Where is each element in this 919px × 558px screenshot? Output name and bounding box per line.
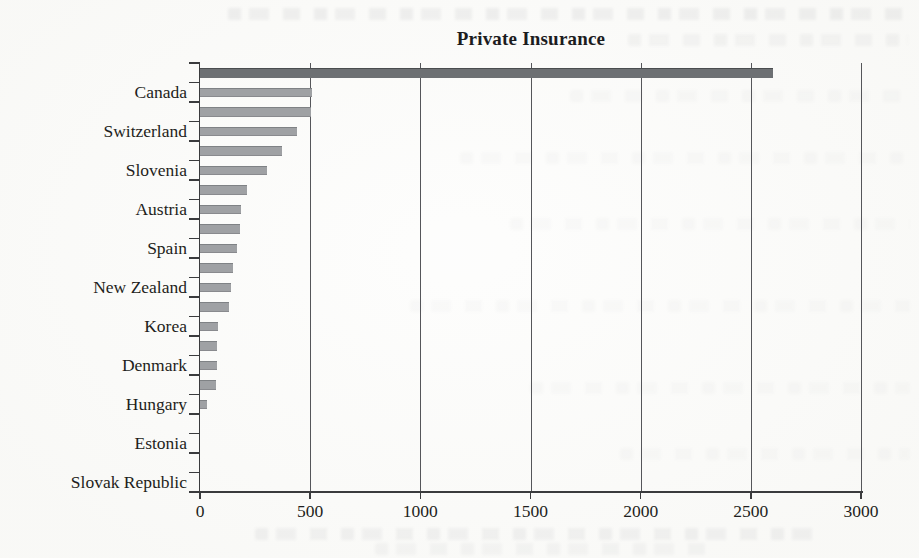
bar-row-11 [200,263,233,273]
x-axis-label-1000: 1000 [403,501,438,522]
x-tick-500 [309,492,310,499]
y-axis-label-new-zealand: New Zealand [7,277,187,297]
x-axis-label-500: 500 [297,501,323,522]
bleed-through-artifact [255,528,820,540]
x-tick-2000 [640,492,641,499]
x-axis-line [197,491,863,493]
x-axis-label-2000: 2000 [623,501,658,522]
x-axis-label-0: 0 [196,501,205,522]
gridline-x-2000 [641,63,642,492]
x-tick-1000 [420,492,421,499]
y-axis-label-hungary: Hungary [7,394,187,414]
x-tick-0 [199,492,200,499]
bleed-through-artifact [628,34,908,46]
y-axis-label-canada: Canada [7,82,187,102]
bar-slovenia [200,166,267,176]
y-axis-label-slovenia: Slovenia [7,160,187,180]
bar-row-17 [200,380,216,390]
bar-denmark [200,361,217,371]
x-axis-label-3000: 3000 [844,501,879,522]
y-axis-label-austria: Austria [7,199,187,219]
gridline-x-500 [310,63,311,492]
bar-spain [200,244,237,254]
bar-row-3 [200,107,311,117]
bar-new-zealand [200,283,231,293]
bar-row-13 [200,302,229,312]
y-axis-label-korea: Korea [7,316,187,336]
bar-canada [200,88,312,98]
bar-austria [200,205,241,215]
plot-area [200,63,861,492]
bar-switzerland [200,127,297,137]
gridline-x-1500 [531,63,532,492]
y-axis-label-denmark: Denmark [7,355,187,375]
y-axis-label-slovak-republic: Slovak Republic [7,472,187,492]
bar-row-1 [200,68,773,78]
bar-korea [200,322,218,332]
scanned-page: Private Insurance CanadaSwitzerlandSlove… [0,0,919,558]
chart-title: Private Insurance [457,28,606,50]
bleed-through-artifact [228,8,904,20]
bleed-through-artifact [375,543,705,555]
bar-row-7 [200,185,247,195]
y-axis-label-spain: Spain [7,238,187,258]
x-tick-1500 [530,492,531,499]
x-tick-2500 [750,492,751,499]
x-axis-label-2500: 2500 [733,501,768,522]
y-axis-label-switzerland: Switzerland [7,121,187,141]
bar-row-15 [200,341,217,351]
x-axis-label-1500: 1500 [513,501,548,522]
gridline-x-2500 [751,63,752,492]
bar-row-9 [200,224,240,234]
bar-hungary [200,400,207,410]
y-axis-label-estonia: Estonia [7,433,187,453]
x-tick-3000 [860,492,861,499]
gridline-x-3000 [861,63,862,492]
bar-row-5 [200,146,282,156]
gridline-x-1000 [420,63,421,492]
